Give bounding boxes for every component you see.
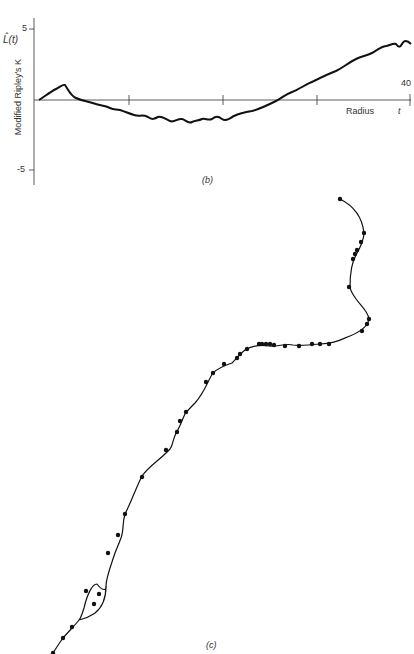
figure-canvas: [0, 0, 414, 654]
x-axis-label: Radius: [346, 106, 374, 116]
x-tick-40: 40: [401, 78, 411, 88]
y-tick-minus5: -5: [17, 164, 25, 174]
panel-label-c: (c): [206, 640, 217, 650]
x-axis-symbol: t: [398, 106, 401, 116]
panel-label-b: (b): [202, 175, 213, 185]
trajectory-path: [53, 199, 369, 653]
y-tick-5: 5: [22, 23, 27, 33]
y-axis-symbol: L̂(t): [3, 34, 18, 45]
y-axis-label: Modified Ripley's K: [13, 47, 23, 147]
